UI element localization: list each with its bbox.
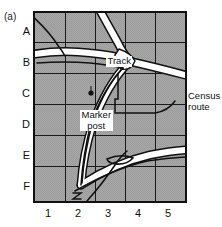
track-label: Track bbox=[106, 56, 132, 67]
col-label-3: 3 bbox=[101, 208, 115, 219]
col-label-2: 2 bbox=[71, 208, 85, 219]
map-graphic bbox=[35, 13, 185, 201]
row-label-d: D bbox=[16, 119, 30, 130]
row-label-c: C bbox=[16, 88, 30, 99]
row-label-b: B bbox=[16, 57, 30, 68]
marker-post-label: Marker post bbox=[80, 110, 113, 131]
row-label-f: F bbox=[16, 181, 30, 192]
figure-panel: (a) bbox=[0, 0, 222, 227]
col-label-5: 5 bbox=[161, 208, 175, 219]
col-label-4: 4 bbox=[131, 208, 145, 219]
map-plot-area bbox=[33, 11, 187, 203]
row-label-e: E bbox=[16, 150, 30, 161]
row-label-a: A bbox=[16, 26, 30, 37]
col-label-1: 1 bbox=[41, 208, 55, 219]
census-route-label: Census route bbox=[188, 90, 220, 112]
panel-label: (a) bbox=[4, 12, 16, 22]
